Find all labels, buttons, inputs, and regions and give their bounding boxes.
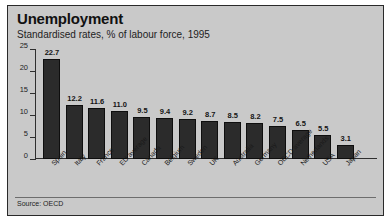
y-axis-label: 15 (8, 85, 28, 94)
y-axis-tick (30, 159, 36, 160)
bar (88, 108, 105, 159)
y-axis-label: 5 (8, 129, 28, 138)
bar-slot: 8.5 (222, 49, 244, 159)
y-axis-label: 10 (8, 107, 28, 116)
source-note: Source: OECD (17, 200, 63, 207)
bar-slot: 9.4 (154, 49, 176, 159)
y-axis-label: 25 (8, 41, 28, 50)
bar (43, 59, 60, 159)
bar-chart-plot: 0510152025 22.712.211.611.09.59.49.28.78… (8, 6, 384, 216)
source-divider (15, 197, 376, 198)
bar (66, 105, 83, 159)
bar-value-label: 3.1 (331, 134, 361, 143)
bar-slot: 22.7 (41, 49, 63, 159)
y-axis-label: 0 (8, 151, 28, 160)
y-axis-label: 20 (8, 63, 28, 72)
bar-slot: 11.0 (109, 49, 131, 159)
bar-slot: 3.1 (335, 49, 357, 159)
chart-figure: Unemployment Standardised rates, % of la… (7, 5, 384, 216)
bar-value-label: 22.7 (37, 48, 67, 57)
bar (201, 121, 218, 159)
